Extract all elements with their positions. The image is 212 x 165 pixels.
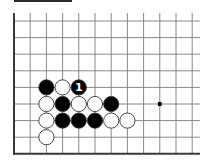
white-stone-icon bbox=[55, 80, 70, 95]
white-stone-icon bbox=[71, 96, 86, 111]
black-stone-icon bbox=[55, 96, 70, 111]
white-stone bbox=[39, 113, 54, 128]
go-board: 1 bbox=[0, 0, 212, 165]
move-number-label: 1 bbox=[75, 81, 83, 94]
white-stone bbox=[71, 96, 86, 111]
white-stone bbox=[39, 96, 54, 111]
black-stone-icon bbox=[39, 80, 54, 95]
black-stone-icon bbox=[55, 113, 70, 128]
star-point-icon bbox=[158, 102, 162, 106]
white-stone bbox=[39, 130, 54, 145]
black-stone bbox=[55, 96, 70, 111]
stones: 1 bbox=[39, 80, 135, 145]
white-stone bbox=[87, 96, 102, 111]
white-stone bbox=[104, 113, 119, 128]
black-stone-icon bbox=[71, 113, 86, 128]
black-stone bbox=[39, 80, 54, 95]
black-stone-icon bbox=[87, 113, 102, 128]
white-stone-icon bbox=[104, 113, 119, 128]
white-stone bbox=[120, 113, 135, 128]
white-stone-icon bbox=[87, 96, 102, 111]
black-stone bbox=[87, 113, 102, 128]
black-stone bbox=[104, 96, 119, 111]
header-bar bbox=[14, 0, 72, 2]
black-stone bbox=[55, 113, 70, 128]
top-bar bbox=[14, 0, 72, 2]
white-stone-icon bbox=[39, 113, 54, 128]
white-stone-icon bbox=[39, 130, 54, 145]
black-stone bbox=[71, 113, 86, 128]
white-stone-icon bbox=[39, 96, 54, 111]
star-points bbox=[158, 102, 162, 106]
black-stone-icon bbox=[104, 96, 119, 111]
white-stone-icon bbox=[120, 113, 135, 128]
white-stone bbox=[55, 80, 70, 95]
black-stone: 1 bbox=[71, 80, 86, 95]
